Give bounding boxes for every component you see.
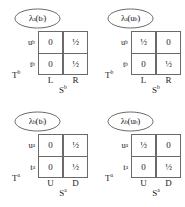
column-group-superscript: a: [64, 187, 66, 193]
row-label: ua: [105, 134, 131, 156]
belief-matrix-figure: λa(tb) Tb ub 0 ½ tb 0 ½ L R Sb: [0, 0, 185, 207]
matrix-cell: 0: [156, 31, 181, 53]
row-label: ta: [105, 156, 131, 178]
matrix-cell: ½: [156, 156, 181, 178]
argument-symbol: u: [130, 14, 134, 23]
panel-lambda-a-ub: λa(ub) Tb ub ½ 0 tb 0 ½ L R Sb: [93, 0, 185, 103]
row-label: ua: [12, 134, 38, 156]
column-group-label: Sa: [38, 189, 88, 198]
matrix-block: Ta ua 0 ½ ta 0 ½: [12, 134, 88, 178]
paren-close: ): [137, 14, 140, 23]
matrix-cell: ½: [63, 31, 88, 53]
row-label: tb: [12, 53, 38, 75]
matrix-cell: ½: [63, 53, 88, 75]
paren-close: ): [43, 117, 46, 126]
matrix-block: Ta ua ½ 0 ta 0 ½: [105, 134, 181, 178]
column-labels: U D: [131, 179, 181, 188]
matrix-row: ua 0 ½: [12, 134, 88, 156]
column-label: U: [38, 179, 63, 188]
column-label: L: [38, 76, 63, 85]
matrix-cell: 0: [131, 156, 156, 178]
matrix-cell: ½: [63, 134, 88, 156]
paren-close: ): [137, 117, 140, 126]
panel-title-ellipse: λb(ub): [107, 111, 154, 132]
column-group-label: Sb: [38, 86, 88, 95]
column-labels: L R: [131, 76, 181, 85]
column-label: L: [131, 76, 156, 85]
matrix-cell: 0: [131, 53, 156, 75]
row-label: tb: [105, 53, 131, 75]
paren-close: ): [43, 14, 46, 23]
matrix-block: Tb ub ½ 0 tb 0 ½: [105, 31, 181, 75]
matrix-cell: ½: [63, 156, 88, 178]
panel-lambda-b-ub: λb(ub) Ta ua ½ 0 ta 0 ½ U D Sa: [93, 103, 185, 206]
column-labels: U D: [38, 179, 88, 188]
panel-title-label: λa(tb): [14, 8, 61, 29]
column-group-superscript: b: [64, 84, 67, 90]
matrix-cell: 0: [38, 156, 63, 178]
matrix-row: ub ½ 0: [105, 31, 181, 53]
column-group-label: Sa: [131, 189, 181, 198]
column-labels: L R: [38, 76, 88, 85]
matrix-block: Tb ub 0 ½ tb 0 ½: [12, 31, 88, 75]
matrix-row: ta 0 ½: [12, 156, 88, 178]
matrix-cell: ½: [131, 134, 156, 156]
matrix-row: ta 0 ½: [105, 156, 181, 178]
matrix-row: tb 0 ½: [105, 53, 181, 75]
panel-title-label: λa(ub): [107, 8, 154, 29]
panel-title-ellipse: λa(ub): [107, 8, 154, 29]
matrix-cell: ½: [156, 53, 181, 75]
column-group-label: Sb: [131, 86, 181, 95]
panel-lambda-b-tb: λb(tb) Ta ua 0 ½ ta 0 ½ U D Sa: [0, 103, 92, 206]
panel-lambda-a-tb: λa(tb) Tb ub 0 ½ tb 0 ½ L R Sb: [0, 0, 92, 103]
panel-title-ellipse: λb(tb): [14, 111, 61, 132]
matrix-cell: 0: [38, 134, 63, 156]
panel-title-ellipse: λa(tb): [14, 8, 61, 29]
matrix-cell: 0: [38, 53, 63, 75]
matrix-row: ub 0 ½: [12, 31, 88, 53]
row-label: ta: [12, 156, 38, 178]
row-label: ub: [12, 31, 38, 53]
column-label: U: [131, 179, 156, 188]
matrix-cell: ½: [131, 31, 156, 53]
column-group-superscript: b: [157, 84, 160, 90]
column-group-superscript: a: [157, 187, 159, 193]
matrix-row: tb 0 ½: [12, 53, 88, 75]
matrix-cell: 0: [38, 31, 63, 53]
matrix-cell: 0: [156, 134, 181, 156]
matrix-row: ua ½ 0: [105, 134, 181, 156]
row-label: ub: [105, 31, 131, 53]
panel-title-label: λb(ub): [107, 111, 154, 132]
panel-title-label: λb(tb): [14, 111, 61, 132]
